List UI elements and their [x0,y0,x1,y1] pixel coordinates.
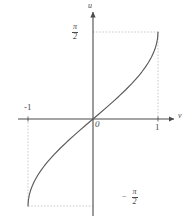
x-tick-label-neg-one: -1 [24,103,32,112]
fraction-pi-over-two: π 2 [72,23,78,42]
guide-lines-upper-right [93,32,158,119]
x-tick-label-one: 1 [155,123,160,132]
minus-sign: − [122,193,127,201]
y-tick-label-neg-pi-half: − π 2 [122,188,138,207]
fraction-denominator: 2 [132,198,138,206]
fraction-numerator: π [132,188,138,196]
y-tick-label-pi-half: π 2 [72,23,78,42]
x-axis-name-label: v [178,112,182,120]
guide-lines-lower-left [28,119,93,206]
fraction-pi-over-two-negative: π 2 [132,188,138,207]
plot-canvas [0,0,188,224]
y-axis-name-label: u [88,2,92,10]
fraction-denominator: 2 [72,33,78,41]
fraction-numerator: π [72,23,78,31]
arcsine-function-plot: 0 1 -1 v u π 2 − π 2 [0,0,188,224]
origin-label: 0 [95,120,100,129]
